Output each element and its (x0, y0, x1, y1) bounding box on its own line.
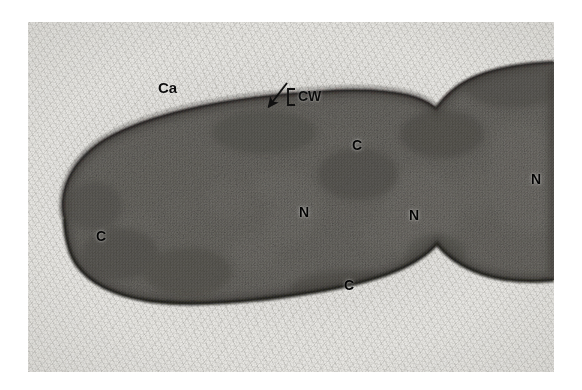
cell-body (28, 22, 554, 372)
micrograph-plate (28, 22, 554, 372)
bacterial-cell-drawing (28, 22, 554, 372)
micrograph-figure: Ca CW C C N N N C (0, 0, 582, 390)
